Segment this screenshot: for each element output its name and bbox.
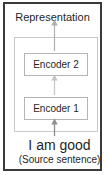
encoder-stack-diagram: Representation Encoder 2 Encoder 1 I am …: [0, 0, 109, 175]
source-sentence-caption: (Source sentence): [10, 153, 109, 166]
encoder-1-label: Encoder 1: [33, 103, 79, 114]
diagram-outer-frame: Representation Encoder 2 Encoder 1 I am …: [3, 2, 102, 171]
source-sentence-text: I am good: [10, 137, 109, 153]
encoder-1-box: Encoder 1: [24, 97, 88, 120]
representation-label: Representation: [5, 11, 100, 24]
encoder-2-box: Encoder 2: [24, 53, 88, 76]
source-sentence-block: I am good (Source sentence): [10, 137, 109, 166]
encoder-2-label: Encoder 2: [33, 59, 79, 70]
